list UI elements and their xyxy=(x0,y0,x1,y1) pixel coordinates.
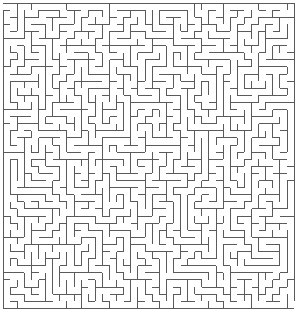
maze-grid xyxy=(0,0,298,321)
maze-walls xyxy=(3,3,294,308)
